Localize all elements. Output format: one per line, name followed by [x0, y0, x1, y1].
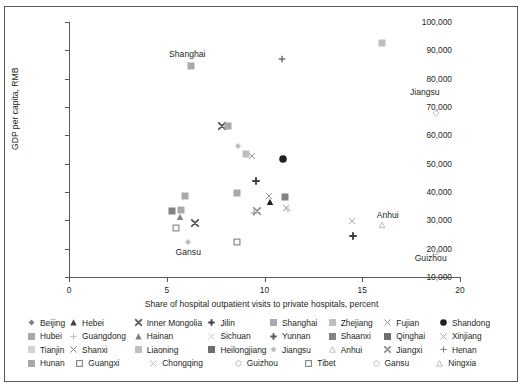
legend-item-yunnan[interactable]: Yunnan — [268, 331, 327, 342]
legend-label: Shandong — [452, 318, 490, 328]
x-tick-label: 0 — [67, 285, 72, 295]
legend-marker-icon — [371, 358, 382, 369]
legend-marker-icon — [74, 358, 85, 369]
legend-marker-icon — [382, 344, 393, 355]
legend-item-hebei[interactable]: Hebei — [68, 317, 133, 328]
data-point-anhui — [378, 222, 385, 229]
y-tick-label: 30,000 — [426, 215, 452, 225]
legend-label: Beijing — [40, 318, 65, 328]
legend-item-fujian[interactable]: Fujian — [382, 317, 438, 328]
legend-item-jiangxi[interactable]: Jiangxi — [382, 344, 438, 355]
y-tick-mark — [65, 192, 70, 193]
data-point-ningxia — [168, 207, 175, 214]
legend-marker-icon — [268, 344, 279, 355]
y-tick-label: 80,000 — [426, 74, 452, 84]
data-point-liaoning — [242, 151, 249, 158]
data-point-hebei — [349, 218, 356, 225]
legend-marker-icon — [206, 344, 217, 355]
legend-item-qinghai[interactable]: Qinghai — [382, 331, 438, 342]
legend-marker-icon — [327, 317, 338, 328]
annotation-anhui: Anhui — [377, 210, 399, 220]
y-tick-label: 70,000 — [426, 102, 452, 112]
x-tick-mark — [362, 277, 363, 282]
legend-item-hunan[interactable]: Hunan — [26, 358, 74, 369]
y-axis-title: GDP per capita, RMB — [10, 68, 20, 150]
legend-label: Jilin — [220, 318, 234, 328]
data-point-jiangsu — [432, 109, 439, 116]
legend-item-jiangsu[interactable]: Jiangsu — [268, 344, 327, 355]
data-point-yunnan — [250, 209, 257, 216]
chart-legend: BeijingHebeiInner MongoliaJilinShanghaiZ… — [26, 316, 498, 378]
legend-item-anhui[interactable]: Anhui — [327, 344, 383, 355]
legend-label: Chongqing — [162, 358, 203, 368]
legend-item-gansu[interactable]: Gansu — [371, 358, 435, 369]
legend-item-hubei[interactable]: Hubei — [26, 331, 68, 342]
legend-label: Gansu — [385, 358, 410, 368]
legend-label: Qinghai — [396, 331, 425, 341]
y-tick-label: 50,000 — [426, 159, 452, 169]
legend-marker-icon — [148, 358, 159, 369]
legend-label: Anhui — [341, 345, 362, 355]
legend-item-guangxi[interactable]: Guangxi — [74, 358, 148, 369]
plot-area: 10,00020,00030,00040,00050,00060,00070,0… — [69, 22, 460, 277]
legend-marker-icon — [327, 331, 338, 342]
legend-row: HunanGuangxiChongqingGuizhouTibetGansuNi… — [26, 357, 498, 371]
y-tick-mark — [65, 135, 70, 136]
legend-item-xinjiang[interactable]: Xinjiang — [438, 331, 498, 342]
data-point-beijing — [225, 122, 232, 129]
legend-label: Guizhou — [247, 358, 278, 368]
x-tick-label: 10 — [260, 285, 269, 295]
legend-marker-icon — [26, 358, 37, 369]
y-tick-mark — [65, 79, 70, 80]
y-axis-line — [69, 22, 70, 277]
legend-item-guizhou[interactable]: Guizhou — [233, 358, 304, 369]
legend-marker-icon — [233, 358, 244, 369]
y-tick-label: 60,000 — [426, 130, 452, 140]
legend-item-liaoning[interactable]: Liaoning — [133, 344, 207, 355]
legend-item-shaanxi[interactable]: Shaanxi — [327, 331, 383, 342]
data-point-shandong — [279, 155, 287, 163]
legend-marker-icon — [133, 331, 144, 342]
legend-label: Shanxi — [82, 345, 108, 355]
legend-item-shanghai[interactable]: Shanghai — [268, 317, 327, 328]
legend-marker-icon — [268, 317, 279, 328]
legend-item-guangdong[interactable]: Guangdong — [68, 331, 133, 342]
legend-marker-icon — [268, 331, 279, 342]
annotation-jiangsu: Jiangsu — [410, 87, 440, 97]
x-tick-label: 15 — [358, 285, 367, 295]
data-point-shanxi — [191, 219, 199, 227]
data-point-heilongjiang — [349, 232, 357, 240]
legend-item-zhejiang[interactable]: Zhejiang — [327, 317, 383, 328]
annotation-gansu: Gansu — [176, 247, 201, 257]
legend-item-tibet[interactable]: Tibet — [303, 358, 370, 369]
legend-item-sichuan[interactable]: Sichuan — [206, 331, 268, 342]
data-point-hainan — [177, 213, 184, 220]
legend-item-ningxia[interactable]: Ningxia — [434, 358, 498, 369]
legend-row: HubeiGuangdongHainanSichuanYunnanShaanxi… — [26, 330, 498, 344]
data-point-henan — [267, 199, 274, 206]
legend-marker-icon — [303, 358, 314, 369]
legend-item-hainan[interactable]: Hainan — [133, 331, 207, 342]
data-point-xinjiang — [266, 192, 273, 199]
y-tick-label: 90,000 — [426, 45, 452, 55]
data-point-guangxi — [172, 224, 179, 231]
y-tick-mark — [65, 22, 70, 23]
legend-item-heilongjiang[interactable]: Heilongjiang — [206, 344, 268, 355]
annotation-guizhou: Guizhou — [415, 253, 447, 263]
legend-item-beijing[interactable]: Beijing — [26, 317, 68, 328]
legend-item-tianjin[interactable]: Tianjin — [26, 344, 68, 355]
legend-marker-icon — [68, 331, 79, 342]
legend-item-jilin[interactable]: Jilin — [206, 317, 268, 328]
chart-page: GDP per capita, RMB 10,00020,00030,00040… — [0, 0, 523, 391]
legend-item-chongqing[interactable]: Chongqing — [148, 358, 232, 369]
legend-item-shanxi[interactable]: Shanxi — [68, 344, 133, 355]
legend-row: TianjinShanxiLiaoningHeilongjiangJiangsu… — [26, 343, 498, 357]
legend-marker-icon — [206, 331, 217, 342]
legend-item-inner-mongolia[interactable]: Inner Mongolia — [133, 317, 207, 328]
legend-marker-icon — [26, 344, 37, 355]
legend-row: BeijingHebeiInner MongoliaJilinShanghaiZ… — [26, 316, 498, 330]
x-tick-label: 5 — [164, 285, 169, 295]
legend-label: Jiangsu — [282, 345, 311, 355]
legend-item-shandong[interactable]: Shandong — [438, 317, 498, 328]
legend-item-henan[interactable]: Henan — [438, 344, 498, 355]
